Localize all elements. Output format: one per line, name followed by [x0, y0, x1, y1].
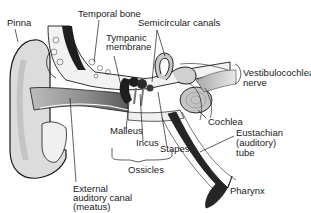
label-pinna: Pinna	[7, 18, 31, 28]
ear-illustration	[0, 0, 311, 213]
external-auditory-canal-shape	[30, 87, 128, 112]
label-cochlea: Cochlea	[208, 117, 243, 127]
label-semicircular-canals: Semicircular canals	[138, 18, 220, 28]
label-external-canal-line3: (meatus)	[73, 202, 110, 212]
label-malleus: Malleus	[110, 126, 143, 136]
label-temporal-bone: Temporal bone	[78, 9, 141, 19]
label-vestibulocochlear-line2: nerve	[243, 78, 267, 88]
label-stapes: Stapes	[160, 144, 190, 154]
ear-anatomy-diagram: Pinna Temporal bone Semicircular canals …	[0, 0, 311, 213]
label-pharynx: Pharynx	[230, 186, 265, 196]
label-incus: Incus	[136, 138, 159, 148]
label-tympanic-membrane-line2: membrane	[106, 42, 151, 52]
label-eustachian-line3: tube	[236, 148, 255, 158]
label-ossicles: Ossicles	[128, 165, 164, 175]
